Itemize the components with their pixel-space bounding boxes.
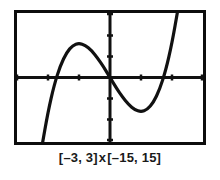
calculator-screen bbox=[14, 10, 206, 145]
caption-separator: x bbox=[98, 150, 107, 165]
caption-y-range: [–15, 15] bbox=[107, 150, 161, 165]
plot-area bbox=[17, 13, 203, 142]
window-range-caption: [–3, 3]x[–15, 15] bbox=[0, 150, 220, 165]
graphing-calculator-figure: [–3, 3]x[–15, 15] bbox=[0, 0, 220, 180]
caption-x-range: [–3, 3] bbox=[59, 150, 98, 165]
